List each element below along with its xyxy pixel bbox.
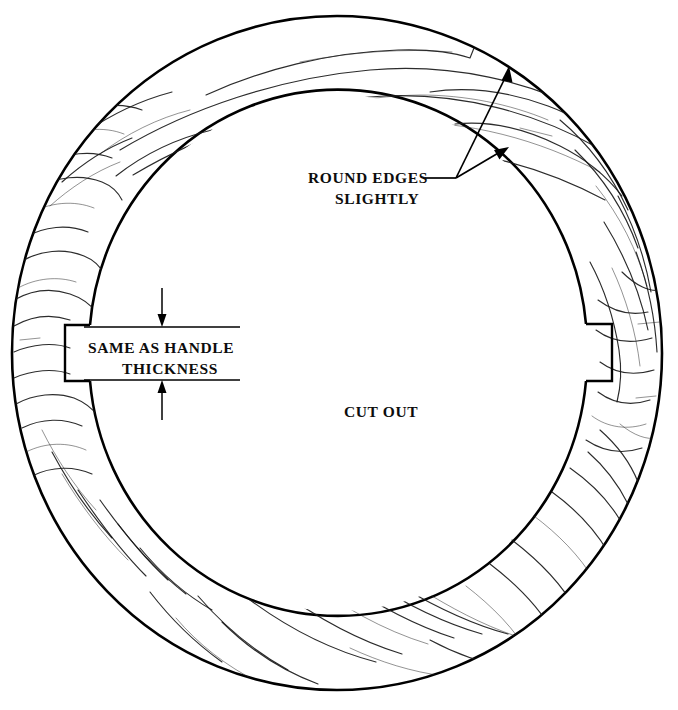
round-edges-label-line1: ROUND EDGES bbox=[308, 169, 428, 186]
inner-ring-edge-top bbox=[90, 90, 586, 325]
ring-diagram: SAME AS HANDLE THICKNESS ROUND EDGES SLI… bbox=[0, 0, 678, 710]
handle-thickness-label-line2: THICKNESS bbox=[122, 360, 218, 377]
wood-grain-texture bbox=[14, 48, 660, 684]
left-notch-outline bbox=[65, 325, 90, 381]
cut-out-label: CUT OUT bbox=[344, 403, 418, 420]
inner-ring-edge-bottom bbox=[90, 381, 586, 616]
round-edges-label-line2: SLIGHTLY bbox=[335, 190, 419, 207]
handle-thickness-label-line1: SAME AS HANDLE bbox=[88, 339, 234, 356]
dimension-arrowhead-bottom bbox=[158, 380, 167, 393]
technical-drawing-canvas: SAME AS HANDLE THICKNESS ROUND EDGES SLI… bbox=[0, 0, 678, 710]
dimension-arrowhead-top bbox=[158, 314, 167, 327]
